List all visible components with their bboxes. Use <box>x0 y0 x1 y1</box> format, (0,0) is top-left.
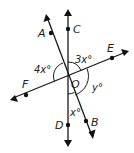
point-F <box>24 93 28 97</box>
arrowhead-D-end <box>64 140 72 147</box>
label-E: E <box>107 42 114 55</box>
arrowhead-C-end <box>64 9 72 16</box>
point-A <box>49 31 53 35</box>
geometry-diagram: A C E F D B O 4x° 3x° y° x° <box>0 0 134 153</box>
label-C: C <box>73 23 81 36</box>
label-O: O <box>71 78 80 91</box>
label-F: F <box>22 78 29 91</box>
angle-label-x: x° <box>69 107 81 118</box>
point-E <box>110 56 114 60</box>
point-D <box>66 123 70 127</box>
label-B: B <box>91 116 99 129</box>
angle-label-4x: 4x° <box>34 64 51 75</box>
point-B <box>84 119 88 123</box>
point-C <box>66 27 70 31</box>
arrowhead-A-end <box>44 14 51 22</box>
line-FE <box>13 52 126 98</box>
arc-angle-DOB <box>68 93 75 95</box>
angle-label-y: y° <box>91 82 103 93</box>
arrowhead-E-end <box>121 49 129 56</box>
angle-label-3x: 3x° <box>75 54 92 65</box>
label-A: A <box>37 27 46 40</box>
label-D: D <box>55 119 63 132</box>
